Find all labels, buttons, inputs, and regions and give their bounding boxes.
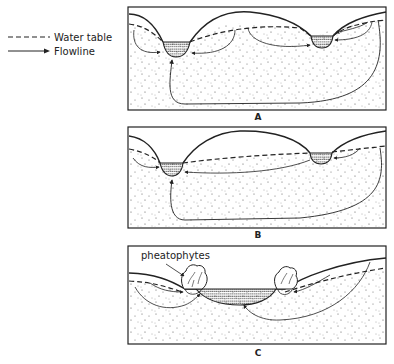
panel-a: [128, 7, 386, 110]
pheatophytes-label: pheatophytes: [141, 250, 210, 261]
groundwater-diagram: [0, 0, 394, 364]
panel-label-a: A: [255, 112, 262, 122]
panel-b: [128, 127, 386, 228]
panel-label-b: B: [255, 230, 262, 240]
panel-label-c: C: [255, 348, 262, 358]
